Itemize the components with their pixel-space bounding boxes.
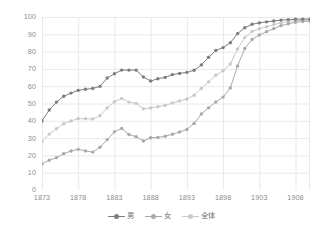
y-tick-label: 50 — [10, 100, 36, 107]
data-point — [156, 77, 159, 80]
data-point — [185, 128, 188, 131]
data-point — [120, 68, 123, 71]
data-point — [98, 85, 101, 88]
data-point — [48, 132, 51, 135]
data-point — [178, 99, 181, 102]
x-tick-label: 1873 — [22, 194, 62, 201]
data-point — [229, 62, 232, 65]
data-point — [250, 23, 253, 26]
x-tick-label: 1893 — [167, 194, 207, 201]
data-point — [279, 24, 282, 27]
data-point — [62, 152, 65, 155]
data-point — [69, 119, 72, 122]
gridlines — [42, 17, 310, 190]
data-point — [84, 117, 87, 120]
data-point — [156, 105, 159, 108]
data-point — [272, 27, 275, 30]
legend-marker-icon — [145, 213, 162, 220]
data-point — [77, 117, 80, 120]
data-point — [236, 32, 239, 35]
data-point — [77, 148, 80, 151]
data-point — [149, 79, 152, 82]
data-point — [91, 150, 94, 153]
data-point — [69, 91, 72, 94]
data-point — [243, 36, 246, 39]
data-point — [91, 87, 94, 90]
data-point — [134, 135, 137, 138]
data-point — [178, 72, 181, 75]
data-point — [214, 49, 217, 52]
data-point — [192, 94, 195, 97]
data-point — [105, 138, 108, 141]
data-point — [207, 56, 210, 59]
data-point — [163, 104, 166, 107]
x-tick-label: 1898 — [203, 194, 243, 201]
data-point — [48, 108, 51, 111]
legend-item-female[interactable]: 女 — [145, 212, 171, 219]
data-point — [236, 64, 239, 67]
data-point — [250, 38, 253, 41]
y-tick-label: 90 — [10, 31, 36, 38]
data-point — [171, 101, 174, 104]
data-point — [156, 136, 159, 139]
legend-item-total[interactable]: 全体 — [182, 212, 215, 219]
data-point — [258, 27, 261, 30]
data-point — [113, 100, 116, 103]
data-point — [265, 30, 268, 33]
data-point — [243, 26, 246, 29]
series-line — [42, 21, 310, 164]
data-point — [105, 106, 108, 109]
data-point — [200, 63, 203, 66]
data-point — [171, 73, 174, 76]
data-point — [279, 18, 282, 21]
series-male — [42, 17, 310, 122]
data-point — [149, 106, 152, 109]
data-point — [142, 107, 145, 110]
y-tick-label: 20 — [10, 152, 36, 159]
data-point — [113, 130, 116, 133]
data-point — [55, 127, 58, 130]
data-point — [229, 86, 232, 89]
y-tick-label: 10 — [10, 169, 36, 176]
legend-marker-icon — [108, 213, 125, 220]
x-tick-label: 1883 — [94, 194, 134, 201]
data-point — [243, 47, 246, 50]
y-tick-label: 30 — [10, 135, 36, 142]
data-point — [301, 17, 304, 20]
data-point — [127, 133, 130, 136]
data-point — [207, 106, 210, 109]
data-point — [98, 114, 101, 117]
y-tick-label: 40 — [10, 117, 36, 124]
data-point — [113, 72, 116, 75]
data-point — [134, 68, 137, 71]
data-point — [171, 133, 174, 136]
data-point — [91, 117, 94, 120]
legend-label: 女 — [164, 212, 171, 219]
data-point — [134, 102, 137, 105]
data-point — [185, 97, 188, 100]
data-point — [221, 69, 224, 72]
data-point — [221, 46, 224, 49]
data-point — [214, 100, 217, 103]
data-point — [178, 130, 181, 133]
data-point — [120, 97, 123, 100]
y-tick-label: 100 — [10, 13, 36, 20]
series-total — [42, 18, 310, 143]
data-point — [258, 33, 261, 36]
plot-area — [42, 17, 310, 190]
data-point — [287, 18, 290, 21]
data-point — [200, 87, 203, 90]
data-point — [84, 88, 87, 91]
data-point — [192, 69, 195, 72]
x-tick-label: 1878 — [58, 194, 98, 201]
data-point — [214, 74, 217, 77]
data-point — [62, 122, 65, 125]
series-layer — [42, 17, 310, 165]
data-point — [192, 122, 195, 125]
legend-item-male[interactable]: 男 — [108, 212, 134, 219]
y-tick-label: 70 — [10, 65, 36, 72]
data-point — [69, 149, 72, 152]
data-point — [163, 76, 166, 79]
data-point — [265, 20, 268, 23]
data-point — [142, 75, 145, 78]
